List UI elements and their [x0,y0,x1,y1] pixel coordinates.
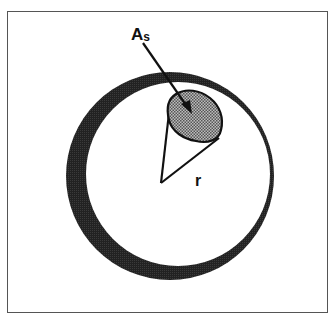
sphere-diagram: As r [0,0,336,321]
area-label: As [131,25,150,44]
radius-label: r [195,172,201,189]
